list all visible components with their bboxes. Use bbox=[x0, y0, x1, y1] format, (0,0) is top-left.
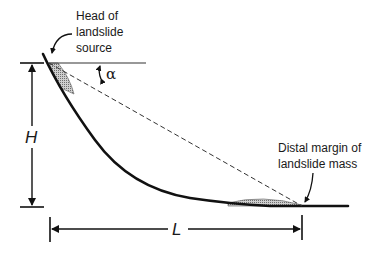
landslide-diagram: α H L Head of landslide source Distal ma… bbox=[0, 0, 379, 253]
length-label: L bbox=[172, 220, 181, 239]
distal-leader-arrow bbox=[305, 173, 313, 202]
height-label: H bbox=[25, 128, 38, 147]
alpha-label: α bbox=[106, 65, 116, 83]
distal-label-line2: landslide mass bbox=[278, 157, 357, 171]
head-label-line1: Head of bbox=[76, 9, 119, 23]
alpha-angle-arrow bbox=[99, 66, 101, 79]
slope-profile bbox=[43, 54, 348, 206]
head-leader-arrow bbox=[52, 34, 72, 53]
travel-angle-line bbox=[49, 63, 302, 206]
head-label-line3: source bbox=[76, 41, 112, 55]
head-label-line2: landslide bbox=[76, 25, 124, 39]
distal-label-line1: Distal margin of bbox=[278, 141, 362, 155]
